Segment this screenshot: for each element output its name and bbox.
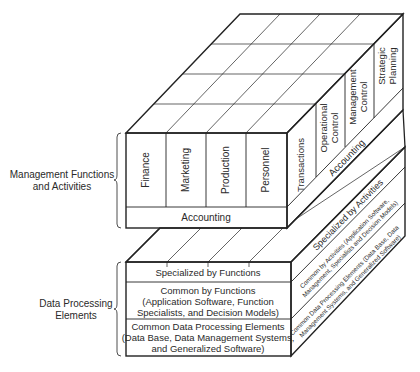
label-management-line2: and Activities (33, 181, 91, 192)
label-data-processing-line2: Elements (55, 310, 97, 321)
front-row-specialized-by-functions: Specialized by Functions (155, 267, 260, 278)
front-band-accounting: Accounting (181, 212, 230, 223)
data-processing-brace: Data Processing Elements (39, 262, 121, 356)
management-brace: Management Functions and Activities (10, 133, 121, 228)
front-column-personnel: Personnel (260, 147, 271, 192)
svg-text:Planning: Planning (387, 48, 398, 85)
svg-text:Common Data Processing Element: Common Data Processing Elements (131, 321, 284, 332)
svg-text:Operational: Operational (318, 103, 329, 152)
front-column-marketing: Marketing (180, 148, 191, 192)
svg-text:Strategic: Strategic (376, 47, 387, 85)
front-row-common-data-processing: Common Data Processing Elements (Data Ba… (122, 321, 295, 354)
side-column-management-control: Management Control (347, 69, 369, 125)
svg-text:Control: Control (358, 82, 369, 113)
svg-text:Specialists, and Decision Mode: Specialists, and Decision Models) (137, 307, 279, 318)
svg-text:Management: Management (347, 69, 358, 125)
front-column-production: Production (220, 146, 231, 194)
svg-text:(Application Software, Functio: (Application Software, Function (142, 296, 273, 307)
brace-icon (114, 133, 121, 228)
brace-icon (114, 262, 121, 356)
svg-text:Control: Control (329, 113, 340, 144)
side-column-operational-control: Operational Control (318, 103, 340, 152)
top-cube-top-face (126, 14, 403, 133)
front-column-finance: Finance (140, 152, 151, 188)
side-column-strategic-planning: Strategic Planning (376, 47, 398, 85)
svg-text:and Generalized Software): and Generalized Software) (151, 343, 264, 354)
label-management-line1: Management Functions (10, 169, 115, 180)
label-data-processing-line1: Data Processing (39, 298, 112, 309)
side-column-transactions: Transactions (295, 138, 306, 192)
svg-text:Common by Functions: Common by Functions (160, 285, 255, 296)
information-system-cube-diagram: Finance Marketing Production Personnel A… (0, 0, 420, 372)
svg-text:(Data Base, Data Management Sy: (Data Base, Data Management Systems, (122, 332, 295, 343)
front-row-common-by-functions: Common by Functions (Application Softwar… (137, 285, 279, 318)
